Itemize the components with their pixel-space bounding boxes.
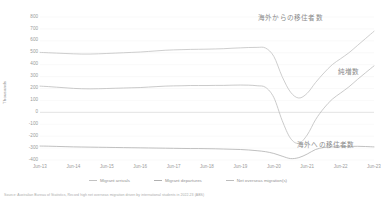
legend-label: Migrant departures: [165, 178, 202, 183]
x-tick-label: Jun-15: [100, 164, 114, 169]
x-tick-label: Jun-13: [33, 164, 47, 169]
legend-swatch: [89, 180, 97, 181]
source-note: Source: Australian Bureau of Statistics,…: [4, 193, 204, 197]
x-tick-label: Jun-19: [234, 164, 248, 169]
legend-label: Net overseas migration(s): [237, 178, 287, 183]
x-tick-label: Jun-21: [300, 164, 314, 169]
legend-label: Migrant arrivals: [100, 178, 130, 183]
x-tick-label: Jun-14: [67, 164, 81, 169]
x-tick-label: Jun-20: [267, 164, 281, 169]
legend-item[interactable]: Migrant departures: [154, 178, 202, 183]
chart-legend: Migrant arrivalsMigrant departuresNet ov…: [0, 178, 376, 183]
legend-item[interactable]: Net overseas migration(s): [226, 178, 287, 183]
x-tick-label: Jun-23: [367, 164, 381, 169]
x-tick-label: Jun-17: [167, 164, 181, 169]
series-line: [40, 66, 374, 144]
annotation-net-migration: 純増数: [338, 66, 360, 76]
x-tick-label: Jun-16: [133, 164, 147, 169]
x-tick-label: Jun-22: [334, 164, 348, 169]
legend-swatch: [226, 180, 234, 181]
annotation-migrant-departures: 海外への移住者数: [297, 139, 355, 149]
legend-item[interactable]: Migrant arrivals: [89, 178, 130, 183]
x-tick-label: Jun-18: [200, 164, 214, 169]
annotation-migrant-arrivals: 海外からの移住者数: [258, 12, 323, 22]
legend-swatch: [154, 180, 162, 181]
